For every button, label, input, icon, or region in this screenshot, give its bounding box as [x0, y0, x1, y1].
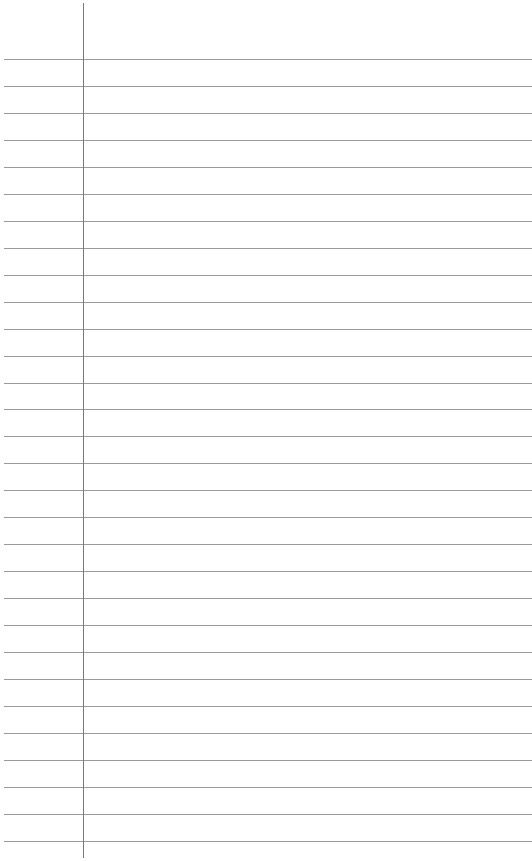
margin-line — [83, 3, 84, 858]
lined-paper — [0, 0, 532, 861]
